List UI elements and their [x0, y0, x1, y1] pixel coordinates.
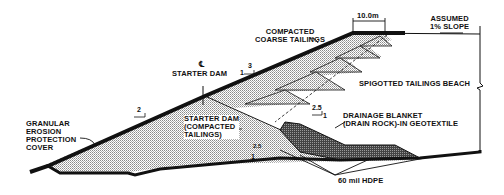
label-granular-cover: GRANULAR EROSION PROTECTION COVER	[26, 120, 76, 152]
slope-drain-run: 2.5	[312, 104, 322, 111]
slope-lower-run: 2	[137, 106, 141, 113]
label-assumed-slope: ASSUMED 1% SLOPE	[430, 15, 469, 31]
label-crest-width: 10.0m	[357, 12, 379, 20]
label-compacted-coarse-tailings: COMPACTED COARSE TAILINGS	[255, 28, 325, 44]
label-starter-dam-body: STARTER DAM (COMPACTED TAILINGS)	[184, 115, 239, 139]
slope-upper-run: 3	[248, 62, 252, 69]
label-hdpe-liner: 60 mil HDPE	[338, 177, 383, 185]
label-centerline-symbol: ℄	[199, 61, 204, 69]
label-spigotted-beach: SPIGOTTED TAILINGS BEACH	[359, 80, 470, 88]
slope-upper-rise: 1	[240, 69, 244, 76]
right-boundary-line	[477, 26, 483, 150]
slope-inner-rise: 1	[251, 153, 255, 160]
dam-cross-section-diagram	[0, 0, 504, 195]
label-starter-dam-centerline: STARTER DAM	[172, 70, 227, 78]
slope-drain-rise: 1	[323, 112, 327, 119]
slope-inner-run: 2.5	[253, 143, 261, 150]
crest-width-dimension	[353, 18, 385, 33]
label-drainage-blanket: DRAINAGE BLANKET (DRAIN ROCK)-IN GEOTEXT…	[343, 112, 458, 128]
